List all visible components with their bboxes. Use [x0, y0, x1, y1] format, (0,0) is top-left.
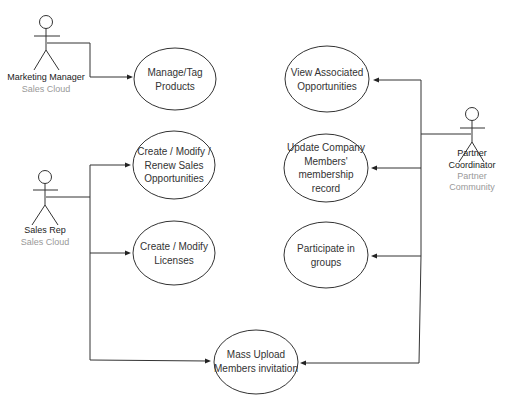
connector-sales-rep-to-licenses: [90, 197, 131, 256]
text-line: Members': [287, 155, 365, 169]
text-line: Renew Sales: [137, 158, 210, 172]
text-line: Licenses: [140, 253, 208, 267]
use-case-label-update-membership-record: Update Company Members' membership recor…: [287, 141, 365, 195]
use-case-label-mass-upload-invitation: Mass Upload Members invitation: [214, 348, 298, 375]
text-line: Opportunities: [291, 79, 364, 93]
actor-system: Sales Cloud: [21, 236, 70, 247]
use-case-label-manage-tag-products: Manage/Tag Products: [147, 66, 202, 93]
actor-label-partner-coordinator: Partner Coordinator Partner Community: [448, 137, 495, 205]
connector-partner-to-participate: [371, 168, 421, 259]
text-line: membership: [287, 168, 365, 182]
text-line: View Associated: [291, 66, 364, 80]
use-case-label-create-modify-licenses: Create / Modify Licenses: [140, 240, 208, 267]
text-line: Update Company: [287, 141, 365, 155]
use-case-label-create-modify-renew-opps: Create / Modify / Renew Sales Opportunit…: [137, 145, 210, 186]
use-case-label-view-associated-opps: View Associated Opportunities: [291, 66, 364, 93]
text-line: Mass Upload: [214, 348, 298, 362]
text-line: Opportunities: [137, 172, 210, 186]
use-case-label-participate-groups: Participate in groups: [297, 242, 355, 269]
text-line: Create / Modify /: [137, 145, 210, 159]
text-line: record: [287, 182, 365, 196]
connector-partner-to-view-opps: [373, 78, 471, 135]
actor-system: Partner Community: [448, 171, 495, 194]
actor-label-marketing-manager: Marketing Manager Sales Cloud: [7, 61, 85, 106]
text-line: groups: [297, 255, 355, 269]
text-line: Members invitation: [214, 361, 298, 375]
actor-name: Partner Coordinator: [448, 149, 495, 170]
actor-system: Sales Cloud: [7, 83, 85, 94]
text-line: Manage/Tag: [147, 66, 202, 80]
text-line: Create / Modify: [140, 240, 208, 254]
connector-sales-rep-to-renew-opps: [46, 163, 131, 198]
connector-partner-to-update-record: [371, 134, 421, 171]
text-line: Products: [147, 79, 202, 93]
text-line: Participate in: [297, 242, 355, 256]
actor-name: Sales Rep: [24, 225, 66, 235]
actor-label-sales-rep: Sales Rep Sales Cloud: [21, 214, 70, 259]
actor-name: Marketing Manager: [7, 72, 85, 82]
